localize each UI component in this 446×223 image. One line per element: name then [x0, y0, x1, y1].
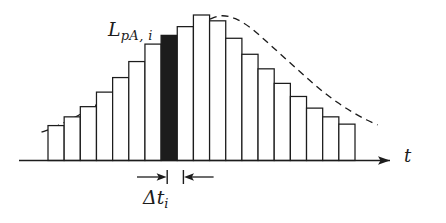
histogram-bar — [64, 117, 80, 161]
histogram-bar — [210, 21, 226, 161]
level-label-subscript: pA, i — [121, 28, 153, 43]
histogram-bar — [129, 62, 145, 161]
t-axis-label: t — [404, 147, 411, 165]
histogram-bar — [258, 69, 274, 161]
histogram-bar — [339, 124, 355, 160]
histogram-bar — [323, 117, 339, 161]
histogram-bar — [307, 108, 323, 160]
histogram-bar — [193, 15, 209, 161]
histogram-envelope-plot — [0, 0, 446, 223]
histogram-bar — [177, 27, 193, 161]
delta-t-annotation-group — [137, 170, 214, 184]
histogram-bar — [113, 78, 129, 161]
histogram-bar-highlighted — [161, 35, 177, 160]
histogram-bar — [242, 54, 258, 160]
histogram-bar — [290, 96, 306, 160]
histogram-bar — [48, 126, 64, 161]
histogram-bar — [96, 92, 112, 160]
level-label: LpA, i — [108, 20, 153, 42]
histogram-bar — [145, 44, 161, 160]
delta-t-label-subscript: i — [164, 196, 168, 211]
histogram-bar — [274, 83, 290, 160]
histogram-bars-group — [48, 15, 355, 161]
histogram-bar — [80, 107, 96, 161]
delta-t-label: Δti — [143, 188, 169, 210]
figure-container: LpA, i Δti t — [0, 0, 446, 223]
level-label-base: L — [108, 18, 121, 40]
histogram-bar — [226, 38, 242, 160]
delta-t-label-base: Δt — [143, 186, 164, 208]
